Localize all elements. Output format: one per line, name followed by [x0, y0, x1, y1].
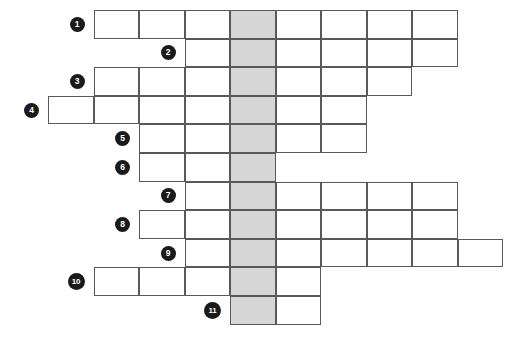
crossword-cell-highlighted[interactable] [230, 267, 276, 296]
crossword-row-10 [94, 267, 322, 296]
clue-number-8: 8 [115, 217, 130, 232]
crossword-cell[interactable] [185, 210, 231, 239]
crossword-cell[interactable] [94, 67, 140, 96]
clue-number-9: 9 [161, 246, 176, 261]
crossword-row-7 [185, 182, 458, 211]
crossword-cell[interactable] [185, 67, 231, 96]
crossword-cell[interactable] [412, 182, 458, 211]
crossword-row-2 [185, 39, 458, 68]
crossword-cell[interactable] [185, 267, 231, 296]
crossword-row-9 [185, 239, 504, 268]
crossword-cell[interactable] [276, 39, 322, 68]
crossword-puzzle: 1234567891011 [0, 0, 530, 356]
crossword-cell[interactable] [185, 239, 231, 268]
crossword-cell[interactable] [321, 124, 367, 153]
crossword-cell[interactable] [367, 182, 413, 211]
crossword-cell[interactable] [367, 10, 413, 39]
crossword-cell[interactable] [94, 267, 140, 296]
clue-number-7: 7 [161, 188, 176, 203]
crossword-row-8 [139, 210, 458, 239]
crossword-cell[interactable] [276, 239, 322, 268]
crossword-cell[interactable] [321, 96, 367, 125]
crossword-cell[interactable] [321, 239, 367, 268]
crossword-cell-highlighted[interactable] [230, 96, 276, 125]
crossword-cell[interactable] [321, 39, 367, 68]
crossword-cell[interactable] [367, 39, 413, 68]
crossword-cell[interactable] [276, 96, 322, 125]
crossword-cell[interactable] [321, 10, 367, 39]
crossword-cell[interactable] [185, 10, 231, 39]
crossword-cell[interactable] [185, 39, 231, 68]
crossword-row-11 [230, 296, 321, 325]
crossword-cell[interactable] [276, 296, 322, 325]
crossword-cell[interactable] [276, 210, 322, 239]
crossword-cell[interactable] [139, 67, 185, 96]
crossword-cell[interactable] [458, 239, 504, 268]
crossword-cell[interactable] [367, 210, 413, 239]
crossword-cell[interactable] [412, 210, 458, 239]
crossword-cell[interactable] [412, 10, 458, 39]
crossword-cell[interactable] [321, 67, 367, 96]
crossword-cell[interactable] [412, 239, 458, 268]
crossword-cell[interactable] [276, 124, 322, 153]
crossword-cell-highlighted[interactable] [230, 67, 276, 96]
crossword-cell[interactable] [276, 10, 322, 39]
crossword-cell-highlighted[interactable] [230, 239, 276, 268]
clue-number-11: 11 [204, 302, 221, 319]
crossword-cell[interactable] [367, 239, 413, 268]
crossword-cell[interactable] [276, 267, 322, 296]
crossword-cell-highlighted[interactable] [230, 296, 276, 325]
crossword-cell-highlighted[interactable] [230, 10, 276, 39]
crossword-cell[interactable] [94, 96, 140, 125]
crossword-cell[interactable] [139, 10, 185, 39]
crossword-cell[interactable] [276, 182, 322, 211]
clue-number-2: 2 [161, 45, 176, 60]
crossword-cell[interactable] [48, 96, 94, 125]
clue-number-1: 1 [70, 17, 85, 32]
crossword-cell[interactable] [139, 210, 185, 239]
crossword-row-6 [139, 153, 276, 182]
clue-number-6: 6 [115, 160, 130, 175]
crossword-cell[interactable] [321, 182, 367, 211]
crossword-cell[interactable] [139, 153, 185, 182]
crossword-row-3 [94, 67, 413, 96]
crossword-cell[interactable] [185, 182, 231, 211]
crossword-cell-highlighted[interactable] [230, 124, 276, 153]
crossword-cell-highlighted[interactable] [230, 153, 276, 182]
crossword-cell[interactable] [321, 210, 367, 239]
crossword-cell-highlighted[interactable] [230, 39, 276, 68]
crossword-row-5 [139, 124, 367, 153]
crossword-cell[interactable] [185, 124, 231, 153]
clue-number-3: 3 [70, 74, 85, 89]
crossword-row-1 [94, 10, 458, 39]
clue-number-10: 10 [68, 273, 85, 290]
crossword-cell[interactable] [185, 153, 231, 182]
crossword-cell[interactable] [276, 67, 322, 96]
crossword-cell[interactable] [185, 96, 231, 125]
crossword-cell[interactable] [139, 96, 185, 125]
crossword-cell[interactable] [367, 67, 413, 96]
crossword-row-4 [48, 96, 367, 125]
crossword-cell[interactable] [139, 267, 185, 296]
crossword-cell-highlighted[interactable] [230, 182, 276, 211]
crossword-cell[interactable] [139, 124, 185, 153]
crossword-cell-highlighted[interactable] [230, 210, 276, 239]
clue-number-4: 4 [24, 103, 39, 118]
crossword-cell[interactable] [94, 10, 140, 39]
clue-number-5: 5 [115, 131, 130, 146]
crossword-cell[interactable] [412, 39, 458, 68]
